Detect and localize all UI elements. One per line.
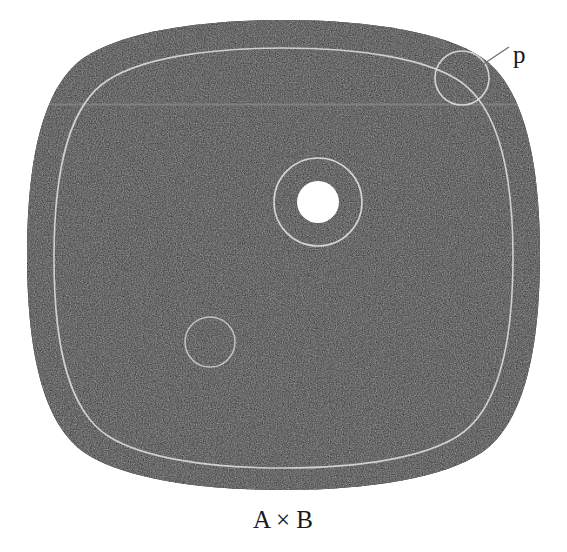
figure-caption: A × B [253, 506, 313, 533]
figure-container: p A × B [0, 0, 567, 552]
point-label-p: p [513, 41, 526, 68]
figure-canvas: p A × B [0, 0, 567, 552]
fiber-disk [297, 181, 339, 223]
